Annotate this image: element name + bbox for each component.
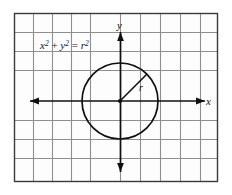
circle-equation-diagram: r x y x2 + y2 = r2 bbox=[0, 0, 232, 195]
radius-label: r bbox=[139, 82, 143, 93]
origin-point bbox=[118, 99, 122, 103]
figure-canvas: r x y x2 + y2 = r2 bbox=[0, 0, 232, 195]
equation-equals: = bbox=[69, 39, 81, 51]
equation-r-exponent: 2 bbox=[85, 39, 89, 48]
equation-plus: + bbox=[49, 39, 61, 51]
y-axis-label: y bbox=[116, 19, 122, 31]
x-axis-label: x bbox=[205, 95, 211, 107]
